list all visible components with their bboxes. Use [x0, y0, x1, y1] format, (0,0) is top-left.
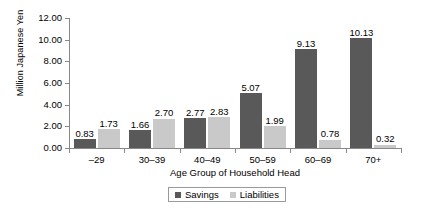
y-axis-tick: [65, 105, 70, 106]
bar-savings-3: 5.07: [240, 93, 262, 148]
legend-swatch-icon: [175, 192, 181, 198]
x-axis-tick-label: 50–59: [249, 155, 275, 165]
y-axis-tick-label: 10.00: [38, 35, 62, 45]
x-axis-tick: [180, 148, 181, 153]
legend-item-savings[interactable]: Savings: [175, 190, 219, 200]
bar-liabilities-2: 2.83: [208, 117, 230, 148]
y-axis-tick-label: 12.00: [38, 13, 62, 23]
x-axis-tick: [290, 148, 291, 153]
bar-liabilities-0: 1.73: [98, 129, 120, 148]
bar-savings-1: 1.66: [129, 130, 151, 148]
x-axis-title: Age Group of Household Head: [69, 167, 401, 178]
legend-label: Liabilities: [240, 190, 279, 200]
bar-value-label: 1.99: [265, 116, 284, 126]
y-axis-tick-label: 8.00: [44, 57, 63, 67]
x-axis-tick-label: 30–39: [139, 155, 165, 165]
y-axis-tick-label: 6.00: [44, 78, 63, 88]
bar-value-label: 0.78: [321, 129, 340, 139]
bar-liabilities-3: 1.99: [264, 126, 286, 148]
bar-value-label: 0.83: [75, 129, 94, 139]
bar-value-label: 2.70: [155, 108, 174, 118]
plot-area: 0.002.004.006.008.0010.0012.00–290.831.7…: [69, 18, 401, 148]
bar-savings-4: 9.13: [295, 49, 317, 148]
bar-value-label: 2.83: [210, 107, 229, 117]
x-axis-tick-label: –29: [89, 155, 105, 165]
bar-savings-5: 10.13: [350, 38, 372, 148]
bar-value-label: 9.13: [297, 39, 316, 49]
y-axis-tick: [65, 18, 70, 19]
x-axis-tick: [124, 148, 125, 153]
y-axis-tick-label: 2.00: [44, 122, 63, 132]
y-axis-tick: [65, 61, 70, 62]
bar-savings-0: 0.83: [74, 139, 96, 148]
y-axis-tick-label: 4.00: [44, 100, 63, 110]
bar-savings-2: 2.77: [184, 118, 206, 148]
x-axis-tick-label: 60–69: [305, 155, 331, 165]
bar-value-label: 1.66: [131, 120, 150, 130]
x-axis-tick-label: 40–49: [194, 155, 220, 165]
bar-value-label: 10.13: [349, 28, 373, 38]
bar-value-label: 0.32: [376, 134, 395, 144]
legend-label: Savings: [185, 190, 219, 200]
y-axis-tick: [65, 126, 70, 127]
x-axis-tick: [235, 148, 236, 153]
x-axis-tick: [69, 148, 70, 153]
x-axis-tick: [346, 148, 347, 153]
legend-swatch-icon: [230, 192, 236, 198]
y-axis-title: Million Japanese Yen: [15, 0, 25, 113]
bar-liabilities-4: 0.78: [319, 140, 341, 148]
bar-value-label: 2.77: [186, 108, 205, 118]
x-axis-tick: [401, 148, 402, 153]
bar-chart: Million Japanese Yen 0.002.004.006.008.0…: [0, 0, 421, 210]
x-axis-tick-label: 70+: [365, 155, 381, 165]
bar-liabilities-1: 2.70: [153, 119, 175, 148]
y-axis-tick: [65, 83, 70, 84]
y-axis-tick: [65, 40, 70, 41]
y-axis-tick-label: 0.00: [44, 143, 63, 153]
bar-liabilities-5: 0.32: [374, 145, 396, 148]
legend-item-liabilities[interactable]: Liabilities: [230, 190, 279, 200]
chart-legend: SavingsLiabilities: [168, 187, 286, 202]
bar-value-label: 5.07: [241, 83, 260, 93]
bar-value-label: 1.73: [99, 119, 118, 129]
